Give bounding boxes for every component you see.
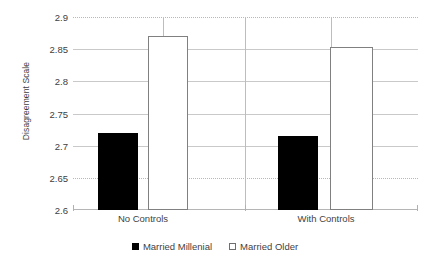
y-tick-label-2-9: 2.9 [24, 12, 68, 23]
y-tick-label-2-85: 2.85 [24, 44, 68, 55]
legend-label-married-millenial: Married Millenial [143, 241, 212, 252]
legend-swatch-hollow-square-icon [229, 243, 236, 250]
y-axis-tick-labels: 2.6 2.65 2.7 2.75 2.8 2.85 2.9 [24, 17, 68, 210]
y-tick-label-2-6: 2.6 [24, 205, 68, 216]
legend-item-married-older: Married Older [229, 241, 298, 252]
x-tick-label-with-controls: With Controls [297, 213, 354, 224]
bar-with-controls-married-older [330, 47, 373, 210]
x-axis-tick-labels: No Controls With Controls [73, 213, 418, 231]
bar-no-controls-married-millenial [98, 133, 138, 210]
plot-area [73, 17, 418, 210]
y-tick-label-2-65: 2.65 [24, 172, 68, 183]
y-tick-label-2-7: 2.7 [24, 140, 68, 151]
bar-no-controls-married-older [148, 36, 188, 210]
x-axis-tick-0 [73, 205, 74, 211]
legend-item-married-millenial: Married Millenial [132, 241, 212, 252]
legend-swatch-filled-square-icon [132, 243, 139, 250]
bar-chart: Disagreement Scale 2.6 2.65 2.7 2.75 2.8… [0, 0, 430, 269]
x-tick-label-no-controls: No Controls [118, 213, 168, 224]
bar-with-controls-married-millenial [278, 136, 318, 210]
x-axis-tick-1 [245, 205, 246, 211]
x-axis-tick-2 [417, 205, 418, 211]
legend-label-married-older: Married Older [240, 241, 298, 252]
chart-legend: Married Millenial Married Older [0, 241, 430, 252]
category-divider-2 [245, 17, 246, 210]
y-tick-label-2-8: 2.8 [24, 76, 68, 87]
y-tick-label-2-75: 2.75 [24, 108, 68, 119]
